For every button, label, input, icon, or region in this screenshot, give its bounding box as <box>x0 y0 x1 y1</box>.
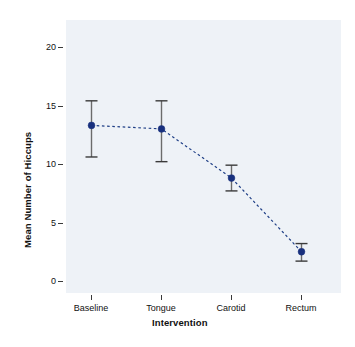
series-line-mean-hiccups <box>92 125 302 251</box>
chart-data-layer <box>0 0 355 347</box>
data-point-baseline <box>88 122 95 129</box>
data-point-carotid <box>228 175 235 182</box>
figure-container: Mean Number of Hiccups Intervention 20 1… <box>0 0 355 347</box>
error-bars-group <box>86 101 308 261</box>
data-point-tongue <box>158 125 165 132</box>
data-points-group <box>88 122 305 255</box>
data-point-rectum <box>298 248 305 255</box>
